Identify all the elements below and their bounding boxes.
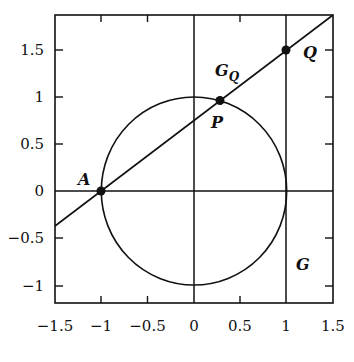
x-tick-label: 0 — [189, 317, 199, 335]
x-tick-labels: −1.5 −1 −0.5 0 0.5 1 1.5 — [37, 317, 345, 335]
y-tick-label: −1 — [22, 277, 44, 295]
x-tick-label: −1 — [90, 317, 112, 335]
label-P: P — [210, 113, 224, 132]
point-Q — [282, 46, 291, 55]
label-Q: Q — [303, 43, 317, 62]
y-tick-label: 0.5 — [20, 135, 44, 153]
x-ticks — [101, 15, 240, 303]
label-GQ-sub: Q — [229, 70, 240, 84]
chart: A P Q GQ G 1.5 1 0.5 0 −0.5 −1 −1.5 −1 −… — [0, 0, 354, 362]
label-A: A — [76, 170, 90, 189]
y-tick-label: 0 — [34, 182, 44, 200]
point-A — [97, 187, 106, 196]
label-G: G — [296, 255, 310, 274]
label-GQ-main: G — [215, 61, 229, 80]
y-tick-labels: 1.5 1 0.5 0 −0.5 −1 — [8, 41, 44, 295]
x-tick-label: 1 — [281, 317, 291, 335]
label-GQ: GQ — [215, 61, 240, 84]
x-tick-label: −0.5 — [129, 317, 165, 335]
y-tick-label: −0.5 — [8, 229, 44, 247]
y-tick-label: 1.5 — [20, 41, 44, 59]
point-P — [216, 96, 225, 105]
x-tick-label: 0.5 — [228, 317, 252, 335]
y-tick-label: 1 — [34, 88, 44, 106]
x-tick-label: 1.5 — [321, 317, 345, 335]
x-tick-label: −1.5 — [37, 317, 73, 335]
